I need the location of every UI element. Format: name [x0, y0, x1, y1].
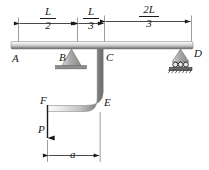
- point-label-f: F: [40, 95, 47, 106]
- roller-support-d: [168, 49, 192, 73]
- main-beam-member: [11, 42, 193, 50]
- dimension-label-seg2: L 3: [83, 6, 99, 31]
- point-label-e: E: [104, 97, 111, 108]
- dimension-seg1-numerator: L: [40, 6, 56, 18]
- load-label-p: P: [38, 124, 45, 135]
- dimension-label-seg3: 2L 3: [139, 4, 159, 29]
- dimension-label-seg1: L 2: [40, 6, 56, 31]
- point-label-d: D: [194, 48, 202, 59]
- point-label-b: B: [59, 52, 66, 63]
- beam-bent-bar-figure: L 2 L 3 2L 3 A B C D E F P a: [0, 0, 209, 170]
- point-label-c: C: [106, 52, 113, 63]
- dimension-seg3-numerator: 2L: [139, 4, 159, 16]
- figure-canvas: [0, 0, 209, 170]
- dimension-seg3-denominator: 3: [139, 18, 159, 30]
- dimension-seg2-denominator: 3: [83, 20, 99, 32]
- point-label-a: A: [12, 53, 19, 64]
- dimension-seg2-numerator: L: [83, 6, 99, 18]
- dimension-label-a: a: [70, 149, 76, 160]
- dimension-seg1-denominator: 2: [40, 20, 56, 32]
